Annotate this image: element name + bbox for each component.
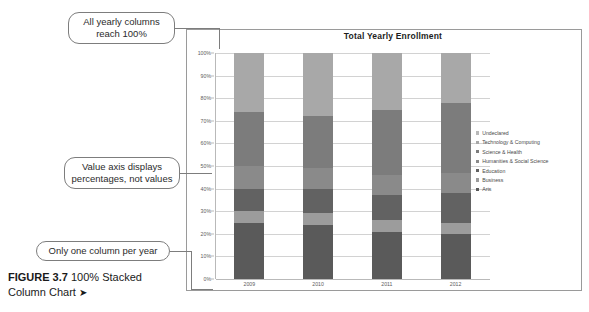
x-axis-tick-label: 2012 xyxy=(450,281,462,287)
y-axis-tick-label: 20% xyxy=(201,231,211,237)
y-axis-tick-label: 0% xyxy=(204,276,212,282)
y-axis-tick-mark xyxy=(211,143,214,144)
y-axis-tick-mark xyxy=(211,233,214,234)
x-axis: 2009201020112012 xyxy=(215,281,490,293)
y-axis-tick-mark xyxy=(211,75,214,76)
y-axis: 0%10%20%30%40%50%60%70%80%90%100% xyxy=(190,53,214,279)
stacked-column[interactable] xyxy=(234,53,264,279)
legend-swatch-icon xyxy=(476,141,479,144)
column-segment[interactable] xyxy=(234,189,264,212)
arrow-icon: ➤ xyxy=(79,287,87,298)
legend-swatch-icon xyxy=(476,169,479,172)
column-segment[interactable] xyxy=(441,193,471,222)
callout-one-column-per-year: Only one column per year xyxy=(36,241,170,261)
legend-item-label: Business xyxy=(482,177,503,183)
figure-number: FIGURE 3.7 xyxy=(8,271,68,283)
y-axis-tick-label: 90% xyxy=(201,73,211,79)
y-axis-tick-mark xyxy=(211,256,214,257)
column-segment[interactable] xyxy=(303,225,333,279)
y-axis-tick-label: 60% xyxy=(201,140,211,146)
column-segment[interactable] xyxy=(234,53,264,112)
legend-item[interactable]: Education xyxy=(476,168,580,174)
legend-item[interactable]: Undeclared xyxy=(476,130,580,136)
leader-line-100pct-vertical xyxy=(219,28,220,49)
stacked-column[interactable] xyxy=(372,53,402,279)
legend-item-label: Technology & Computing xyxy=(482,139,540,145)
column-segment[interactable] xyxy=(372,220,402,231)
leader-line-onecol-vertical xyxy=(191,251,192,289)
stacked-column[interactable] xyxy=(441,53,471,279)
legend-item[interactable]: Business xyxy=(476,177,580,183)
column-segment[interactable] xyxy=(441,234,471,279)
column-segment[interactable] xyxy=(303,53,333,116)
leader-line-axis-horizontal xyxy=(180,173,212,174)
figure-caption: FIGURE 3.7 100% Stacked Column Chart ➤ xyxy=(8,270,180,299)
legend-item-label: Science & Health xyxy=(482,149,522,155)
y-axis-tick-mark xyxy=(211,211,214,212)
y-axis-tick-mark xyxy=(211,279,214,280)
column-segment[interactable] xyxy=(441,103,471,173)
column-segment[interactable] xyxy=(234,223,264,280)
legend-item-label: Education xyxy=(482,168,505,174)
callout-100pct-text: All yearly columns reach 100% xyxy=(75,16,168,40)
column-segment[interactable] xyxy=(372,110,402,176)
column-segment[interactable] xyxy=(303,116,333,168)
column-segment[interactable] xyxy=(441,173,471,193)
y-axis-tick-mark xyxy=(211,166,214,167)
x-axis-tick-label: 2011 xyxy=(381,281,392,287)
gridline xyxy=(216,279,490,280)
y-axis-tick-label: 70% xyxy=(201,118,211,124)
legend-item-label: Arts xyxy=(482,186,491,192)
column-segment[interactable] xyxy=(372,53,402,110)
x-axis-tick-label: 2010 xyxy=(312,281,324,287)
legend-swatch-icon xyxy=(476,131,479,134)
legend-item-label: Humanities & Social Science xyxy=(482,158,548,164)
legend-item-label: Undeclared xyxy=(482,130,509,136)
legend-item[interactable]: Technology & Computing xyxy=(476,139,580,145)
y-axis-tick-mark xyxy=(211,120,214,121)
legend-swatch-icon xyxy=(476,188,479,191)
column-segment[interactable] xyxy=(234,112,264,166)
column-segment[interactable] xyxy=(303,189,333,214)
y-axis-tick-mark xyxy=(211,188,214,189)
legend-item[interactable]: Science & Health xyxy=(476,149,580,155)
column-segment[interactable] xyxy=(372,195,402,220)
column-series-group xyxy=(215,53,490,279)
chart-legend: UndeclaredTechnology & ComputingScience … xyxy=(476,130,580,196)
y-axis-tick-mark xyxy=(211,98,214,99)
column-segment[interactable] xyxy=(234,211,264,222)
y-axis-tick-label: 30% xyxy=(201,208,211,214)
callout-axis-text: Value axis displays percentages, not val… xyxy=(70,161,174,185)
leader-line-100pct-horizontal xyxy=(175,28,220,29)
column-segment[interactable] xyxy=(303,213,333,224)
leader-line-onecol-foot xyxy=(191,289,213,290)
y-axis-tick-label: 100% xyxy=(198,50,211,56)
column-segment[interactable] xyxy=(372,175,402,195)
legend-swatch-icon xyxy=(476,150,479,153)
callout-onecol-text: Only one column per year xyxy=(49,245,158,257)
y-axis-tick-label: 50% xyxy=(201,163,211,169)
legend-item[interactable]: Arts xyxy=(476,186,580,192)
callout-value-axis-percentages: Value axis displays percentages, not val… xyxy=(64,157,180,189)
stacked-column[interactable] xyxy=(303,53,333,279)
column-segment[interactable] xyxy=(372,232,402,279)
y-axis-tick-label: 40% xyxy=(201,186,211,192)
legend-swatch-icon xyxy=(476,160,479,163)
y-axis-tick-label: 10% xyxy=(201,253,211,259)
legend-swatch-icon xyxy=(476,178,479,181)
leader-line-onecol-horizontal xyxy=(170,251,192,252)
column-segment[interactable] xyxy=(303,168,333,188)
column-segment[interactable] xyxy=(441,223,471,234)
y-axis-tick-mark xyxy=(211,53,214,54)
callout-all-columns-reach-100: All yearly columns reach 100% xyxy=(68,12,175,44)
chart-title: Total Yearly Enrollment xyxy=(318,31,468,41)
y-axis-tick-label: 80% xyxy=(201,95,211,101)
column-segment[interactable] xyxy=(441,53,471,103)
column-segment[interactable] xyxy=(234,166,264,189)
legend-item[interactable]: Humanities & Social Science xyxy=(476,158,580,164)
x-axis-tick-label: 2009 xyxy=(244,281,256,287)
